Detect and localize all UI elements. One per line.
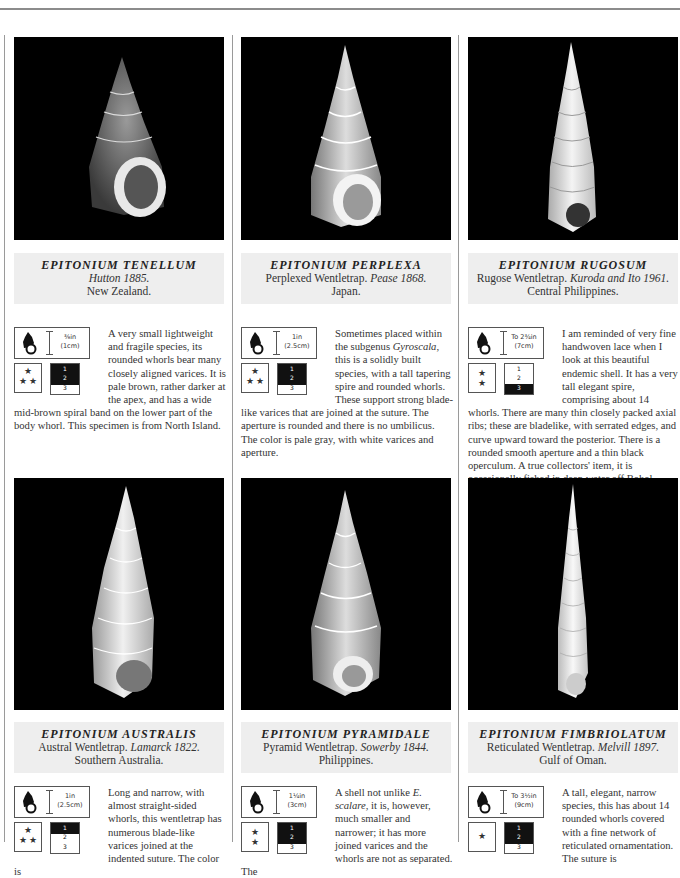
shell-size-icon: [247, 790, 265, 814]
species-common-name: Pyramid Wentletrap.: [263, 741, 358, 753]
depth-indicator-icon: 1 2 3: [504, 822, 534, 854]
size-bar-icon: [276, 331, 277, 355]
column-divider-1: [232, 35, 233, 842]
size-bar-icon: [49, 790, 50, 814]
shell-photo: [14, 478, 224, 710]
depth-indicator-icon: 1 2 3: [50, 822, 80, 854]
column-divider-left: [4, 35, 5, 842]
shell-size-icon: [20, 331, 38, 355]
species-author: Melvill 1897.: [598, 741, 659, 753]
rarity-stars-icon: ★★ ★: [14, 822, 42, 852]
size-bar-icon: [503, 790, 504, 814]
species-locality: Philippines.: [241, 754, 451, 767]
size-indicator: ⅜in(1cm): [14, 327, 90, 359]
species-common-name: Austral Wentletrap.: [38, 741, 128, 753]
shell-size-icon: [247, 331, 265, 355]
size-metric: (7cm): [506, 342, 542, 351]
size-indicator: 1¼in(3cm): [241, 786, 317, 818]
species-name: EPITONIUM TENELLUM: [14, 258, 224, 272]
species-description-block: 1in(2.5cm) ★★ ★ 1 2 3 Long and narrow, w…: [14, 786, 226, 878]
species-description-block: 1¼in(3cm) ★★ 1 2 3 A shell not unlike E.…: [241, 786, 453, 878]
rarity-stars-icon: ★★ ★: [14, 363, 42, 393]
rarity-stars-icon: ★: [468, 822, 496, 852]
species-caption: EPITONIUM FIMBRIOLATUM Reticulated Wentl…: [468, 722, 678, 773]
shell-photo: [14, 37, 224, 240]
shell-size-icon: [474, 790, 492, 814]
species-author: Sowerby 1844.: [361, 741, 429, 753]
species-name: EPITONIUM RUGOSUM: [468, 258, 678, 272]
size-metric: (3cm): [279, 801, 315, 810]
column-divider-2: [458, 35, 459, 842]
species-locality: Gulf of Oman.: [468, 754, 678, 767]
size-imperial: 1¼in: [279, 792, 315, 801]
species-locality: Japan.: [241, 285, 451, 298]
species-locality: Central Philippines.: [468, 285, 678, 298]
depth-indicator-icon: 1 2 3: [504, 363, 534, 395]
size-metric: (2.5cm): [279, 342, 315, 351]
species-description: A tall, elegant, narrow species, this ha…: [562, 787, 673, 864]
shell-photo: [468, 37, 678, 240]
size-indicator: 1in(2.5cm): [14, 786, 90, 818]
size-bar-icon: [503, 331, 504, 355]
rarity-stars-icon: ★★: [241, 822, 269, 852]
size-metric: (1cm): [52, 342, 88, 351]
shell-size-icon: [474, 331, 492, 355]
species-caption: EPITONIUM PYRAMIDALE Pyramid Wentletrap.…: [241, 722, 451, 773]
shell-photo: [241, 478, 451, 710]
size-metric: (2.5cm): [52, 801, 88, 810]
info-icons: To 3½in(9cm) ★ 1 2 3: [468, 786, 554, 854]
species-name: EPITONIUM PERPLEXA: [241, 258, 451, 272]
depth-indicator-icon: 1 2 3: [50, 363, 80, 395]
species-caption: EPITONIUM RUGOSUM Rugose Wentletrap. Kur…: [468, 253, 678, 304]
species-common-name: Perplexed Wentletrap.: [266, 272, 368, 284]
size-imperial: ⅜in: [52, 333, 88, 342]
shell-rugosum-image: [468, 37, 678, 240]
species-name: EPITONIUM PYRAMIDALE: [241, 727, 451, 741]
species-author: Kuroda and Ito 1961.: [570, 272, 669, 284]
shell-perplexa-image: [241, 37, 451, 240]
rarity-stars-icon: ★★: [468, 363, 496, 393]
info-icons: ⅜in(1cm) ★★ ★ 1 2 3: [14, 327, 100, 395]
species-description-block: To 3½in(9cm) ★ 1 2 3 A tall, elegant, na…: [468, 786, 680, 865]
info-icons: 1¼in(3cm) ★★ 1 2 3: [241, 786, 327, 854]
species-locality: New Zealand.: [14, 285, 224, 298]
size-indicator: 1in(2.5cm): [241, 327, 317, 359]
shell-size-icon: [20, 790, 38, 814]
size-indicator: To 3½in(9cm): [468, 786, 544, 818]
size-imperial: 1in: [279, 333, 315, 342]
shell-australis-image: [14, 478, 224, 710]
species-name: EPITONIUM AUSTRALIS: [14, 727, 224, 741]
size-bar-icon: [276, 790, 277, 814]
shell-fimbriolatum-image: [468, 478, 678, 710]
shell-photo: [468, 478, 678, 710]
species-author: Hutton 1885.: [89, 272, 150, 284]
species-description-block: 1in(2.5cm) ★★ ★ 1 2 3 Sometimes placed w…: [241, 327, 453, 459]
species-description-block: ⅜in(1cm) ★★ ★ 1 2 3 A very small lightwe…: [14, 327, 226, 433]
shell-photo: [241, 37, 451, 240]
size-imperial: 1in: [52, 792, 88, 801]
info-icons: To 2¾in(7cm) ★★ 1 2 3: [468, 327, 554, 395]
species-author: Lamarck 1822.: [131, 741, 200, 753]
size-imperial: To 2¾in: [506, 333, 542, 342]
species-author: Pease 1868.: [370, 272, 426, 284]
species-caption: EPITONIUM PERPLEXA Perplexed Wentletrap.…: [241, 253, 451, 304]
species-caption: EPITONIUM AUSTRALIS Austral Wentletrap. …: [14, 722, 224, 773]
species-name: EPITONIUM FIMBRIOLATUM: [468, 727, 678, 741]
info-icons: 1in(2.5cm) ★★ ★ 1 2 3: [14, 786, 100, 854]
size-imperial: To 3½in: [506, 792, 542, 801]
depth-indicator-icon: 1 2 3: [277, 363, 307, 395]
info-icons: 1in(2.5cm) ★★ ★ 1 2 3: [241, 327, 327, 395]
species-description-block: To 2¾in(7cm) ★★ 1 2 3 I am reminded of v…: [468, 327, 680, 499]
depth-indicator-icon: 1 2 3: [277, 822, 307, 854]
size-metric: (9cm): [506, 801, 542, 810]
top-rule: [0, 8, 680, 10]
species-common-name: Rugose Wentletrap.: [477, 272, 567, 284]
species-caption: EPITONIUM TENELLUM Hutton 1885. New Zeal…: [14, 253, 224, 304]
rarity-stars-icon: ★★ ★: [241, 363, 269, 393]
size-bar-icon: [49, 331, 50, 355]
size-indicator: To 2¾in(7cm): [468, 327, 544, 359]
species-locality: Southern Australia.: [14, 754, 224, 767]
shell-pyramidale-image: [241, 478, 451, 710]
species-common-name: Reticulated Wentletrap.: [487, 741, 595, 753]
shell-tenellum-image: [14, 37, 224, 240]
